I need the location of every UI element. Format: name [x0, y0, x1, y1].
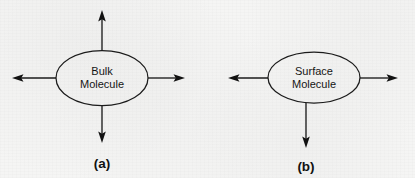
arrow-up-panel-a: [98, 10, 106, 50]
arrow-down-panel-b: [302, 103, 310, 148]
arrow-right-panel-b: [360, 74, 398, 82]
figure-container: Bulk Molecule (a): [0, 0, 415, 178]
bulk-molecule-label-line-1: Bulk: [91, 65, 113, 77]
arrow-down-panel-a: [98, 105, 106, 143]
panel-a-caption: (a): [94, 156, 111, 171]
arrow-right-panel-a: [148, 74, 185, 82]
bulk-molecule-label-line-2: Molecule: [80, 78, 124, 90]
force-balance-diagram: Bulk Molecule (a): [0, 0, 415, 178]
panel-b-surface-molecule: Surface Molecule (b): [228, 52, 398, 174]
surface-molecule-label-line-1: Surface: [295, 65, 333, 77]
panel-a-bulk-molecule: Bulk Molecule (a): [12, 10, 185, 171]
surface-molecule-label-line-2: Molecule: [292, 78, 336, 90]
arrow-left-panel-b: [228, 74, 268, 82]
panel-b-caption: (b): [297, 159, 314, 174]
arrow-left-panel-a: [12, 74, 56, 82]
